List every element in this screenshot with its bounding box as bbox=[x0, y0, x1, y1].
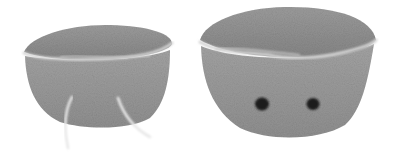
right-crochet-bowl bbox=[200, 7, 376, 138]
right-eye bbox=[307, 98, 320, 110]
left-eye bbox=[255, 98, 269, 111]
photo-scene: Two grey crocheted bowl-shaped pieces on… bbox=[0, 0, 398, 165]
left-crochet-bowl bbox=[24, 25, 172, 148]
photo-canvas bbox=[0, 0, 398, 165]
